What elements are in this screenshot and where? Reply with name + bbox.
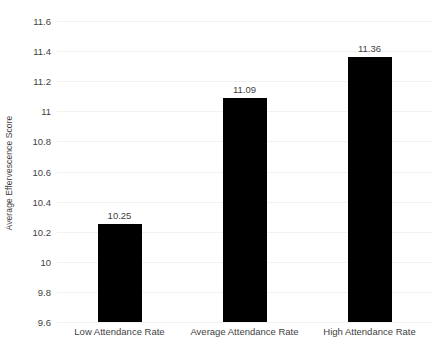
y-axis-title: Average Effervescence Score <box>0 0 18 346</box>
y-axis-tick-label: 9.6 <box>18 317 51 328</box>
x-axis-category-label: Average Attendance Rate <box>182 325 307 341</box>
y-axis-tick-label: 9.8 <box>18 286 51 297</box>
gridline <box>57 322 432 323</box>
bar[interactable] <box>98 224 142 322</box>
plot-area: 10.2511.0911.36 <box>57 21 432 322</box>
y-axis-tick-label: 11 <box>18 106 51 117</box>
bar[interactable] <box>348 57 392 322</box>
bar-value-label: 11.09 <box>233 84 256 95</box>
y-axis-tick-label: 11.4 <box>18 46 51 57</box>
bar[interactable] <box>223 98 267 322</box>
y-axis-tick-label: 10.4 <box>18 196 51 207</box>
y-axis-tick-label: 10 <box>18 256 51 267</box>
x-axis-category-label: High Attendance Rate <box>307 325 432 341</box>
bar-chart: Average Effervescence Score 11.611.411.2… <box>0 0 445 346</box>
bar-value-label: 11.36 <box>358 43 381 54</box>
x-axis-category-label: Low Attendance Rate <box>57 325 182 341</box>
x-axis-category-labels: Low Attendance RateAverage Attendance Ra… <box>57 325 432 341</box>
bar-value-label: 10.25 <box>108 210 132 221</box>
y-axis-tick-label: 10.8 <box>18 136 51 147</box>
y-axis-tick-label: 11.6 <box>18 16 51 27</box>
gridline <box>57 21 432 22</box>
y-axis-tick-label: 11.2 <box>18 76 51 87</box>
y-axis-tick-label: 10.2 <box>18 226 51 237</box>
y-axis-tick-label: 10.6 <box>18 166 51 177</box>
